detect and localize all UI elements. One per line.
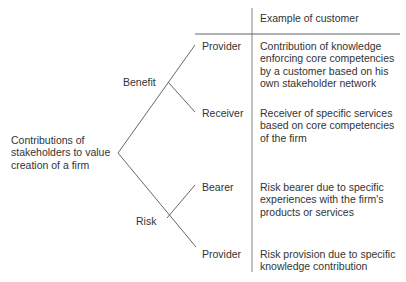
bearer-branch-line bbox=[167, 185, 195, 218]
branch-risk-label: Risk bbox=[136, 215, 156, 227]
leaf-benefit-provider-role: Provider bbox=[202, 40, 241, 52]
leaf-risk-bearer-role: Bearer bbox=[202, 181, 234, 193]
receiver-branch-line bbox=[168, 82, 195, 112]
column-header: Example of customer bbox=[260, 12, 359, 24]
leaf-benefit-provider-example: Contribution of knowledge enforcing core… bbox=[260, 40, 406, 89]
leaf-risk-provider-example: Risk provision due to specific knowledge… bbox=[260, 248, 406, 273]
risk-branch-line bbox=[118, 153, 196, 247]
leaf-benefit-receiver-role: Receiver bbox=[202, 107, 243, 119]
leaf-risk-provider-role: Provider bbox=[202, 248, 241, 260]
stakeholder-contribution-diagram: Example of customer Contributions of sta… bbox=[0, 0, 406, 282]
branch-benefit-label: Benefit bbox=[123, 76, 156, 88]
leaf-benefit-receiver-example: Receiver of specific services based on c… bbox=[260, 107, 406, 144]
root-label: Contributions of stakeholders to value c… bbox=[11, 134, 121, 171]
leaf-risk-bearer-example: Risk bearer due to specific experiences … bbox=[260, 181, 406, 218]
